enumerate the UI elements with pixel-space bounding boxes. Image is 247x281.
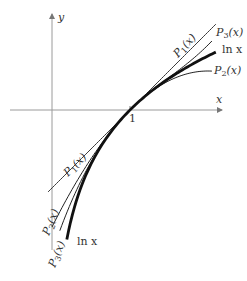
ln-curve bbox=[67, 52, 216, 239]
svg-text:P3(x): P3(x) bbox=[45, 239, 69, 270]
label-p3-top: P3(x) bbox=[215, 26, 243, 40]
label-ln-bottom: ln x bbox=[77, 235, 98, 248]
y-axis-label: y bbox=[57, 11, 65, 24]
taylor-diagram: x y 1 P1(x) P3(x) ln x P2(x) P1(x) P2(x)… bbox=[0, 0, 247, 281]
label-p2-top: P2(x) bbox=[213, 64, 241, 78]
label-p3-bottom: P3(x) bbox=[45, 239, 69, 270]
p3-curve bbox=[60, 41, 212, 231]
x-axis-label: x bbox=[216, 93, 223, 106]
label-ln-top: ln x bbox=[222, 43, 243, 56]
svg-text:P2(x): P2(x) bbox=[213, 64, 241, 78]
svg-text:P2(x): P2(x) bbox=[39, 207, 63, 238]
x-tick-label-1: 1 bbox=[129, 112, 136, 125]
svg-text:P3(x): P3(x) bbox=[215, 26, 243, 40]
label-p2-bottom: P2(x) bbox=[39, 207, 63, 238]
